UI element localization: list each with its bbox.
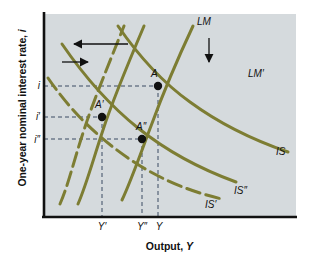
point-a-label: A [150,68,158,79]
curve-lm-prime-label: LM′ [248,68,265,79]
plot-svg: A A′ A″ LM LM′ IS IS″ IS′ [0,0,313,264]
point-a-double-prime-marker [138,135,146,143]
curve-is-double-prime-label: IS″ [234,185,247,196]
curve-is-prime-label: IS′ [205,199,217,210]
figure-container: One-year nominal interest rate, i Output… [0,0,313,264]
point-a-double-prime-label: A″ [135,121,147,132]
point-a-prime-label: A′ [94,99,105,110]
curve-is-label: IS [276,146,286,157]
point-a-marker [154,82,162,90]
curve-lm-label: LM [197,16,212,27]
point-a-prime-marker [98,113,106,121]
